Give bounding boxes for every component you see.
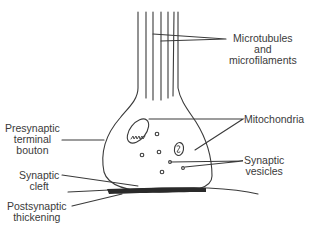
synaptic-vesicle	[182, 167, 185, 170]
label-cleft: Synaptic cleft	[19, 170, 59, 192]
synaptic-vesicle	[155, 132, 159, 136]
leader-vesicles	[171, 161, 243, 167]
microtubule-line	[173, 12, 174, 96]
leader-mitochondria	[149, 119, 243, 150]
bouton-outline	[103, 12, 212, 192]
synaptic-vesicle	[157, 150, 161, 154]
leader-microtubules	[153, 34, 226, 41]
mitochondrion-large	[123, 115, 153, 147]
leader-cleft	[62, 175, 138, 186]
leader-postsynaptic	[72, 194, 122, 206]
mitochondrion-cristae	[177, 146, 180, 153]
label-vesicles: Synaptic vesicles	[244, 155, 284, 177]
label-microtubules: Microtubules and microfilaments	[229, 33, 297, 66]
postsynaptic-thickening	[107, 188, 206, 194]
label-postsynaptic: Postsynaptic thickening	[7, 201, 67, 223]
synaptic-vesicle	[160, 170, 164, 174]
synaptic-vesicle	[140, 153, 144, 157]
label-presynaptic: Presynaptic terminal bouton	[5, 123, 60, 156]
mitochondrion-cristae	[131, 136, 145, 139]
label-mitochondria: Mitochondria	[244, 114, 304, 125]
